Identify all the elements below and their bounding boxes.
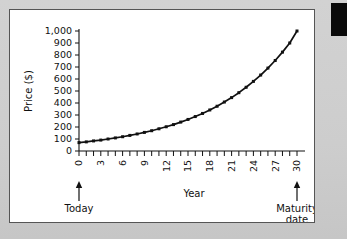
- x-tick-label: 9: [139, 160, 150, 166]
- y-axis-ticks: [75, 31, 79, 151]
- y-tick-label: 900: [54, 37, 72, 48]
- price-accretion-chart: 01002003004005006007008009001,000 036912…: [10, 10, 314, 222]
- figure-background: 01002003004005006007008009001,000 036912…: [0, 0, 347, 239]
- y-tick-label: 800: [54, 49, 72, 60]
- y-tick-label: 100: [54, 133, 72, 144]
- data-point-markers: [78, 30, 299, 145]
- y-axis-tick-labels: 01002003004005006007008009001,000: [45, 25, 72, 156]
- y-tick-label: 1,000: [45, 25, 72, 36]
- y-tick-label: 300: [54, 109, 72, 120]
- maturity-arrow-head: [294, 181, 300, 188]
- x-tick-label: 27: [270, 160, 281, 172]
- maturity-label-line1: Maturity: [276, 203, 314, 214]
- x-tick-label: 21: [226, 160, 237, 172]
- x-tick-label: 6: [117, 160, 128, 166]
- x-tick-label: 24: [248, 160, 259, 172]
- chart-panel: 01002003004005006007008009001,000 036912…: [9, 9, 315, 223]
- black-edge-marker: [331, 3, 347, 36]
- today-label: Today: [64, 203, 94, 214]
- y-axis-title: Price ($): [23, 70, 34, 112]
- annotation-today: Today: [64, 181, 94, 214]
- y-tick-label: 600: [54, 73, 72, 84]
- y-tick-label: 200: [54, 121, 72, 132]
- today-arrow-head: [76, 181, 82, 188]
- y-tick-label: 500: [54, 85, 72, 96]
- x-tick-label: 3: [95, 160, 106, 166]
- x-tick-label: 12: [161, 160, 172, 172]
- x-axis-tick-labels: 036912151821242730: [73, 160, 302, 172]
- annotation-maturity-date: Maturity date: [276, 181, 314, 222]
- y-tick-label: 700: [54, 61, 72, 72]
- x-tick-label: 15: [182, 160, 193, 172]
- x-axis-title: Year: [182, 188, 205, 199]
- x-tick-label: 18: [204, 160, 215, 172]
- price-curve: [79, 31, 297, 143]
- x-axis-ticks: [79, 151, 297, 156]
- y-tick-label: 400: [54, 97, 72, 108]
- y-tick-label: 0: [66, 145, 72, 156]
- x-tick-label: 30: [291, 160, 302, 172]
- x-tick-label: 0: [73, 160, 84, 166]
- maturity-label-line2: date: [286, 214, 309, 222]
